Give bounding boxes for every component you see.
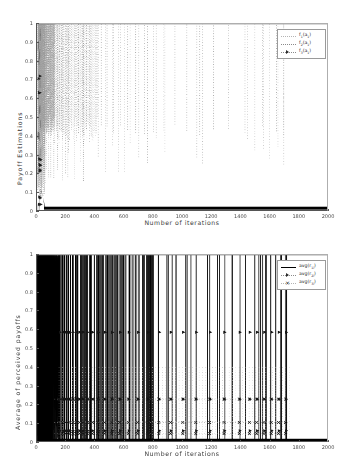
x-tick-mark bbox=[240, 440, 241, 443]
y-tick-mark bbox=[36, 192, 39, 193]
y-tick-label: 0.3 bbox=[12, 152, 33, 158]
legend-line-sample-icon bbox=[280, 33, 297, 40]
x-tick-mark bbox=[270, 209, 271, 212]
y-tick-mark bbox=[36, 211, 39, 212]
y-tick-mark bbox=[36, 23, 39, 24]
x-tick-label: 400 bbox=[82, 444, 106, 450]
legend-line-sample-icon bbox=[280, 41, 297, 48]
x-tick-label: 2000 bbox=[316, 444, 339, 450]
y-tick-mark bbox=[36, 367, 39, 368]
y-tick-mark bbox=[36, 173, 39, 174]
x-tick-label: 1400 bbox=[228, 444, 252, 450]
x-tick-mark bbox=[240, 209, 241, 212]
x-axis-label-bottom: Number of iterations bbox=[36, 450, 328, 457]
x-tick-mark bbox=[299, 440, 300, 443]
y-tick-label: 1 bbox=[12, 20, 33, 26]
y-tick-mark bbox=[36, 310, 39, 311]
x-tick-label: 200 bbox=[53, 213, 77, 219]
x-tick-mark bbox=[182, 209, 183, 212]
x-tick-mark bbox=[211, 209, 212, 212]
y-tick-mark bbox=[36, 273, 39, 274]
x-tick-label: 600 bbox=[112, 444, 136, 450]
y-tick-label: 0.6 bbox=[12, 95, 33, 101]
x-tick-label: 800 bbox=[141, 213, 165, 219]
x-tick-mark bbox=[124, 209, 125, 212]
x-tick-label: 1200 bbox=[199, 213, 223, 219]
y-tick-label: 0.6 bbox=[12, 326, 33, 332]
x-tick-mark bbox=[153, 440, 154, 443]
x-tick-mark bbox=[94, 440, 95, 443]
legend-item-avg-r3[interactable]: avg(r3i) bbox=[280, 280, 323, 287]
legend-top[interactable]: f1(a1) f2(a1) f3(a1) bbox=[277, 29, 326, 59]
x-tick-mark bbox=[328, 440, 329, 443]
y-tick-label: 0.7 bbox=[12, 307, 33, 313]
y-tick-label: 0.4 bbox=[12, 133, 33, 139]
legend-label-avg-r3: avg(r3i) bbox=[299, 278, 316, 288]
x-tick-label: 1600 bbox=[258, 444, 282, 450]
y-tick-mark bbox=[36, 42, 39, 43]
y-tick-label: 0.7 bbox=[12, 76, 33, 82]
y-tick-label: 1 bbox=[12, 251, 33, 257]
x-tick-label: 1800 bbox=[287, 444, 311, 450]
x-tick-mark bbox=[211, 440, 212, 443]
figure-average-perceived-payoffs: Average of perceived payoffs avg(r1i) av… bbox=[0, 230, 339, 461]
y-tick-mark bbox=[36, 254, 39, 255]
x-tick-mark bbox=[124, 440, 125, 443]
x-axis-label-top: Number of iterations bbox=[36, 219, 328, 226]
x-tick-label: 600 bbox=[112, 213, 136, 219]
x-tick-mark bbox=[299, 209, 300, 212]
legend-line-sample-icon bbox=[280, 264, 297, 271]
x-tick-label: 1400 bbox=[228, 213, 252, 219]
figure-payoff-estimations: Payoff Estimations f1(a1) f2(a1) f3(a1) … bbox=[0, 0, 339, 230]
x-tick-mark bbox=[65, 209, 66, 212]
y-tick-mark bbox=[36, 292, 39, 293]
y-tick-label: 0.8 bbox=[12, 58, 33, 64]
y-tick-mark bbox=[36, 98, 39, 99]
y-tick-label: 0.1 bbox=[12, 420, 33, 426]
y-tick-mark bbox=[36, 329, 39, 330]
y-tick-label: 0.4 bbox=[12, 364, 33, 370]
y-tick-mark bbox=[36, 155, 39, 156]
y-tick-mark bbox=[36, 442, 39, 443]
x-tick-label: 1000 bbox=[170, 444, 194, 450]
x-tick-mark bbox=[182, 440, 183, 443]
x-tick-mark bbox=[270, 440, 271, 443]
y-tick-label: 0.1 bbox=[12, 189, 33, 195]
legend-item-f3[interactable]: f3(a1) bbox=[280, 49, 323, 56]
x-tick-mark bbox=[153, 209, 154, 212]
x-tick-label: 800 bbox=[141, 444, 165, 450]
y-tick-mark bbox=[36, 79, 39, 80]
y-tick-label: 0.9 bbox=[12, 39, 33, 45]
x-tick-mark bbox=[65, 440, 66, 443]
y-tick-label: 0.9 bbox=[12, 270, 33, 276]
y-tick-label: 0 bbox=[12, 439, 33, 445]
y-tick-mark bbox=[36, 404, 39, 405]
x-tick-label: 1800 bbox=[287, 213, 311, 219]
y-tick-label: 0.3 bbox=[12, 383, 33, 389]
y-tick-mark bbox=[36, 136, 39, 137]
y-tick-mark bbox=[36, 386, 39, 387]
x-tick-label: 1000 bbox=[170, 213, 194, 219]
y-tick-mark bbox=[36, 117, 39, 118]
legend-triangle-marker-icon bbox=[280, 49, 297, 56]
legend-cross-marker-icon bbox=[280, 280, 297, 287]
y-tick-label: 0.2 bbox=[12, 170, 33, 176]
y-tick-mark bbox=[36, 423, 39, 424]
y-tick-mark bbox=[36, 348, 39, 349]
legend-label-f3: f3(a1) bbox=[299, 47, 311, 57]
x-tick-label: 400 bbox=[82, 213, 106, 219]
y-tick-label: 0.2 bbox=[12, 401, 33, 407]
x-tick-mark bbox=[328, 209, 329, 212]
x-tick-mark bbox=[94, 209, 95, 212]
x-tick-label: 1600 bbox=[258, 213, 282, 219]
x-tick-label: 2000 bbox=[316, 213, 339, 219]
y-tick-label: 0.5 bbox=[12, 345, 33, 351]
legend-bottom[interactable]: avg(r1i) avg(r2i) avg(r3i) bbox=[277, 260, 326, 290]
x-tick-label: 200 bbox=[53, 444, 77, 450]
x-tick-label: 1200 bbox=[199, 444, 223, 450]
y-tick-label: 0.5 bbox=[12, 114, 33, 120]
y-tick-label: 0.8 bbox=[12, 289, 33, 295]
plot-wrapper-bottom: Average of perceived payoffs avg(r1i) av… bbox=[0, 230, 339, 461]
y-tick-mark bbox=[36, 61, 39, 62]
y-tick-label: 0 bbox=[12, 208, 33, 214]
